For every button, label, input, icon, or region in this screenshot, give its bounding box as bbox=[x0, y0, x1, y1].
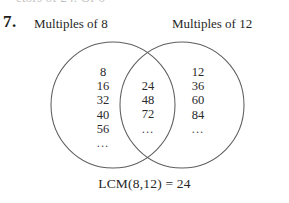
ellipsis: ... bbox=[128, 122, 168, 136]
value: 56 bbox=[83, 122, 123, 136]
value: 84 bbox=[178, 108, 218, 122]
venn-diagram-figure: ctors of 24. Of 6 7. Multiples of 8 Mult… bbox=[0, 0, 289, 203]
value: 16 bbox=[83, 79, 123, 93]
value: 12 bbox=[178, 65, 218, 79]
lcm-caption: LCM(8,12) = 24 bbox=[0, 176, 289, 192]
value: 48 bbox=[128, 93, 168, 107]
value: 36 bbox=[178, 79, 218, 93]
right-only-values: 12 36 60 84 ... bbox=[178, 65, 218, 136]
value: 8 bbox=[83, 65, 123, 79]
value: 60 bbox=[178, 93, 218, 107]
value: 72 bbox=[128, 107, 168, 121]
ellipsis: ... bbox=[178, 122, 218, 136]
ellipsis: ... bbox=[83, 136, 123, 150]
left-only-values: 8 16 32 40 56 ... bbox=[83, 65, 123, 150]
value: 40 bbox=[83, 108, 123, 122]
value: 24 bbox=[128, 79, 168, 93]
intersection-values: 24 48 72 ... bbox=[128, 79, 168, 136]
value: 32 bbox=[83, 93, 123, 107]
